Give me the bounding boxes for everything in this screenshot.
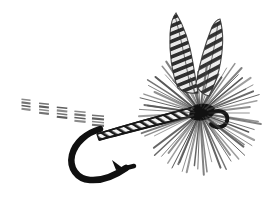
tail-fiber xyxy=(74,121,85,122)
tail-fiber xyxy=(22,102,31,103)
fly-illustration-root: Dry Fly xyxy=(0,0,262,201)
tail-fiber xyxy=(57,117,68,118)
tail-fiber xyxy=(92,118,104,119)
tail-fiber xyxy=(39,106,49,107)
tail-fiber xyxy=(92,125,104,126)
tail-fiber xyxy=(22,109,31,110)
tail-fiber xyxy=(57,110,68,111)
tail-fiber xyxy=(74,114,85,115)
dry-fly-illustration xyxy=(0,0,262,201)
tail-fiber xyxy=(39,113,49,114)
